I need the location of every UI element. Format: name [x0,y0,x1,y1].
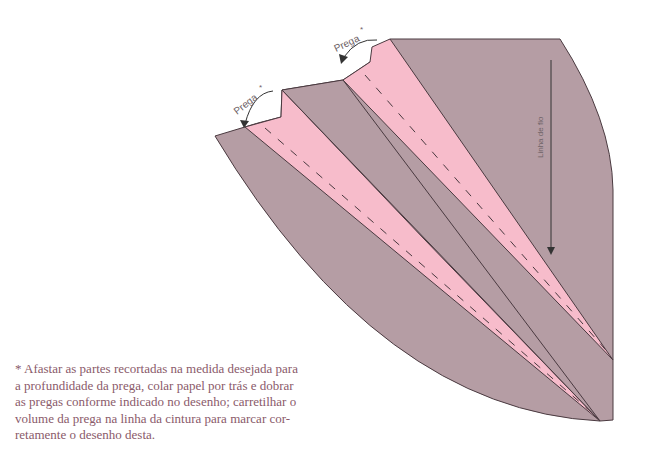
pleat-right-asterisk: * [360,25,363,34]
pleat-right-arrowhead-icon [339,54,348,64]
footnote-line: as pregas conforme indicado no desenho; … [15,394,325,411]
grain-line-label: Linha de fio [536,116,545,158]
footnote-line: * Afastar as partes recortadas na medida… [15,361,325,378]
footnote-line: volume da prega na linha da cintura para… [15,411,325,428]
footnote: * Afastar as partes recortadas na medida… [15,361,325,444]
pleat-right-label: Prega [332,32,361,53]
pleat-left-label: Prega [231,91,259,116]
footnote-line: retamente o desenho desta. [15,427,325,444]
footnote-line: a profundidade da prega, colar papel por… [15,378,325,395]
pleat-left-asterisk: * [259,83,262,92]
